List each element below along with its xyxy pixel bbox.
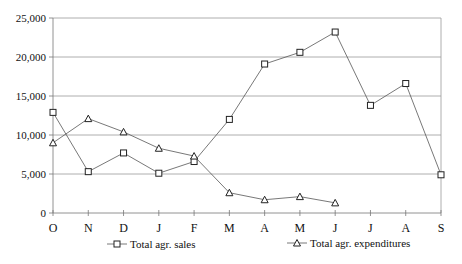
data-point-triangle — [120, 128, 127, 135]
x-tick-label: F — [191, 221, 198, 235]
data-point-square — [226, 116, 232, 122]
x-axis-tick-labels: ONDJFMAMJJAS — [49, 221, 445, 235]
x-tick-label: N — [84, 221, 93, 235]
series-sales — [50, 29, 444, 178]
x-tick-label: A — [401, 221, 410, 235]
x-tick-label: O — [49, 221, 58, 235]
data-point-triangle — [85, 115, 92, 122]
data-point-triangle — [50, 139, 57, 146]
data-point-square — [50, 109, 56, 115]
data-point-square — [367, 102, 373, 108]
x-tick-label: J — [156, 221, 161, 235]
square-marker-icon — [114, 241, 120, 247]
line-chart: 05,00010,00015,00020,00025,000 ONDJFMAMJ… — [0, 0, 462, 264]
x-tick-label: A — [260, 221, 269, 235]
axes — [49, 18, 441, 216]
x-tick-label: M — [224, 221, 235, 235]
data-point-square — [297, 49, 303, 55]
y-tick-label: 15,000 — [16, 90, 47, 102]
y-tick-label: 5,000 — [21, 168, 46, 180]
data-point-square — [438, 172, 444, 178]
y-tick-label: 25,000 — [16, 12, 47, 24]
legend-item-expenditures: Total agr. expenditures — [287, 237, 410, 249]
y-tick-label: 10,000 — [16, 129, 47, 141]
data-point-square — [332, 29, 338, 35]
x-tick-label: J — [333, 221, 338, 235]
gridlines — [53, 18, 441, 174]
legend-item-sales: Total agr. sales — [107, 238, 196, 250]
x-tick-label: J — [368, 221, 373, 235]
data-point-square — [403, 81, 409, 87]
x-tick-label: S — [438, 221, 445, 235]
data-point-square — [121, 150, 127, 156]
legend-label-expenditures: Total agr. expenditures — [310, 237, 410, 249]
legend-label-sales: Total agr. sales — [130, 238, 196, 250]
data-point-square — [262, 61, 268, 67]
series-group — [50, 29, 445, 206]
data-point-square — [85, 169, 91, 175]
y-tick-label: 20,000 — [16, 51, 47, 63]
y-tick-label: 0 — [41, 207, 47, 219]
data-point-triangle — [296, 193, 303, 200]
x-tick-label: M — [295, 221, 306, 235]
data-point-square — [156, 170, 162, 176]
y-axis-tick-labels: 05,00010,00015,00020,00025,000 — [16, 12, 47, 219]
data-point-triangle — [155, 145, 162, 152]
legend: Total agr. sales Total agr. expenditures — [107, 237, 410, 250]
x-tick-label: D — [119, 221, 128, 235]
